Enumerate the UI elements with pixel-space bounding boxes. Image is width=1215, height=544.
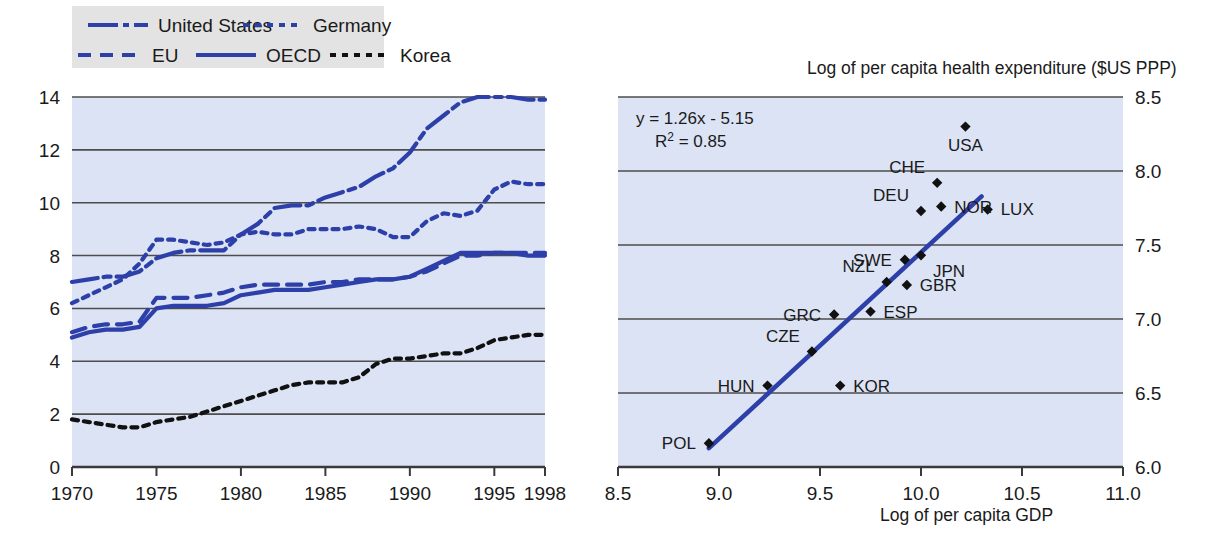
r-squared-label: R2 = 0.85: [655, 130, 726, 151]
right-y-tick-label: 8.0: [1135, 161, 1161, 182]
legend-label-korea: Korea: [400, 45, 451, 66]
right-x-tick-label: 8.5: [605, 483, 631, 504]
figure-svg: United States Germany EU OECD Korea 0246…: [0, 0, 1215, 544]
right-y-tick-label: 7.0: [1135, 309, 1161, 330]
scatter-label-usa: USA: [948, 136, 984, 155]
left-plot-area: [72, 97, 545, 467]
left-x-tick-label: 1980: [220, 483, 262, 504]
left-y-tick-label: 10: [39, 193, 60, 214]
left-y-tick-label: 4: [49, 351, 60, 372]
scatter-label-jpn: JPN: [933, 262, 965, 281]
right-y-tick-label: 8.5: [1135, 87, 1161, 108]
right-plot-area: [618, 97, 1123, 467]
right-x-tick-label: 9.5: [807, 483, 833, 504]
regression-equation-label: y = 1.26x - 5.15: [636, 109, 754, 128]
legend-label-eu: EU: [152, 45, 178, 66]
left-y-tick-label: 12: [39, 140, 60, 161]
scatter-label-che: CHE: [889, 158, 925, 177]
legend-label-oecd: OECD: [266, 45, 321, 66]
r-squared-value: = 0.85: [679, 132, 727, 151]
legend-label-germany: Germany: [313, 15, 392, 36]
right-x-tick-labels: 8.59.09.510.010.511.0: [605, 483, 1141, 504]
left-x-ticks: [72, 467, 545, 476]
scatter-label-hun: HUN: [718, 377, 755, 396]
right-y-axis-title: Log of per capita health expenditure ($U…: [807, 58, 1177, 78]
left-y-tick-label: 0: [49, 457, 60, 478]
left-chart-panel: United States Germany EU OECD Korea 0246…: [39, 6, 566, 504]
scatter-label-kor: KOR: [853, 377, 890, 396]
scatter-label-deu: DEU: [873, 186, 909, 205]
scatter-label-grc: GRC: [783, 306, 821, 325]
scatter-label-esp: ESP: [884, 303, 918, 322]
scatter-label-cze: CZE: [766, 327, 800, 346]
svg-text:R2 = 0.85: R2 = 0.85: [655, 130, 726, 151]
right-x-tick-label: 11.0: [1105, 483, 1141, 504]
scatter-label-nor: NOR: [954, 198, 992, 217]
scatter-label-pol: POL: [662, 434, 696, 453]
left-x-tick-label: 1990: [389, 483, 431, 504]
left-y-tick-label: 2: [49, 404, 60, 425]
left-x-tick-label: 1998: [524, 483, 566, 504]
right-x-axis-title: Log of per capita GDP: [880, 505, 1053, 525]
legend-label-united-states: United States: [158, 15, 272, 36]
left-y-tick-label: 6: [49, 298, 60, 319]
left-x-tick-labels: 1970197519801985199019951998: [51, 483, 566, 504]
left-x-tick-label: 1985: [304, 483, 346, 504]
right-x-tick-label: 10.5: [1004, 483, 1041, 504]
right-chart-panel: Log of per capita health expenditure ($U…: [605, 58, 1177, 525]
right-x-tick-label: 9.0: [706, 483, 732, 504]
left-x-tick-label: 1970: [51, 483, 93, 504]
right-y-tick-label: 6.0: [1135, 457, 1161, 478]
r-squared-prefix: R: [655, 132, 667, 151]
right-y-tick-label: 7.5: [1135, 235, 1161, 256]
figure-container: United States Germany EU OECD Korea 0246…: [0, 0, 1215, 544]
right-x-tick-label: 10.0: [903, 483, 940, 504]
right-x-ticks: [618, 467, 1123, 476]
left-y-tick-label: 14: [39, 87, 61, 108]
right-y-tick-label: 6.5: [1135, 383, 1161, 404]
scatter-label-swe: SWE: [853, 251, 892, 270]
left-y-tick-label: 8: [49, 246, 60, 267]
left-x-tick-label: 1975: [135, 483, 177, 504]
scatter-label-lux: LUX: [1001, 200, 1034, 219]
left-x-tick-label: 1995: [473, 483, 515, 504]
left-y-tick-labels: 02468101214: [39, 87, 61, 478]
right-y-tick-labels: 6.06.57.07.58.08.5: [1135, 87, 1161, 478]
